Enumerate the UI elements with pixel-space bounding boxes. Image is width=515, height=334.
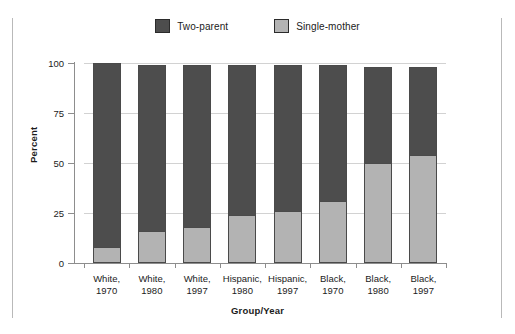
x-axis-tick <box>129 263 130 268</box>
legend-label-single-mother: Single-mother <box>296 21 360 32</box>
x-axis-tick <box>356 263 357 268</box>
y-axis-tick-label: 0 <box>59 258 64 269</box>
y-axis-tick-label: 100 <box>48 58 64 69</box>
y-axis-tick <box>68 213 74 214</box>
x-axis-tick <box>401 263 402 268</box>
bar-segment-single-mother[interactable] <box>93 247 121 263</box>
legend-item-two-parent: Two-parent <box>155 19 228 33</box>
figure-right-rule <box>501 18 502 318</box>
bar-group[interactable] <box>364 63 392 263</box>
bar-segment-single-mother[interactable] <box>138 231 166 263</box>
bar-segment-two-parent[interactable] <box>183 65 211 227</box>
bar-group[interactable] <box>228 63 256 263</box>
x-axis-tick-label-line: Black, <box>392 273 454 285</box>
bar-segment-two-parent[interactable] <box>409 67 437 155</box>
legend-label-two-parent: Two-parent <box>177 21 228 32</box>
figure-left-rule <box>12 18 13 318</box>
y-axis-tick <box>68 263 74 264</box>
bar-group[interactable] <box>183 63 211 263</box>
bar-group[interactable] <box>319 63 347 263</box>
bar-segment-two-parent[interactable] <box>93 63 121 247</box>
legend-swatch-single-mother <box>274 19 289 33</box>
bar-segment-single-mother[interactable] <box>364 163 392 263</box>
bar-segment-single-mother[interactable] <box>183 227 211 263</box>
y-axis-tick-label: 25 <box>53 208 64 219</box>
y-axis-tick-label: 75 <box>53 108 64 119</box>
bar-segment-two-parent[interactable] <box>228 65 256 215</box>
y-axis-title: Percent <box>28 127 39 163</box>
x-axis-tick <box>310 263 311 268</box>
plot-area: 0255075100 White,1970White,1980White,199… <box>84 63 446 263</box>
x-axis-title: Group/Year <box>0 305 515 316</box>
bar-segment-single-mother[interactable] <box>228 215 256 263</box>
x-axis-tick <box>84 263 85 268</box>
bar-segment-single-mother[interactable] <box>409 155 437 263</box>
x-axis-tick-label: Black,1997 <box>392 273 454 296</box>
bar-segment-two-parent[interactable] <box>319 65 347 201</box>
y-axis-tick <box>68 163 74 164</box>
bar-segment-single-mother[interactable] <box>274 211 302 263</box>
y-axis-line <box>74 62 75 264</box>
x-axis-tick <box>265 263 266 268</box>
bar-group[interactable] <box>93 63 121 263</box>
legend-swatch-two-parent <box>155 19 170 33</box>
y-axis-tick <box>68 113 74 114</box>
bar-segment-two-parent[interactable] <box>274 65 302 211</box>
x-axis-tick <box>175 263 176 268</box>
bar-segment-single-mother[interactable] <box>319 201 347 263</box>
bar-segment-two-parent[interactable] <box>138 65 166 231</box>
x-axis-tick <box>220 263 221 268</box>
y-axis-tick <box>68 63 74 64</box>
y-axis-tick-label: 50 <box>53 158 64 169</box>
bar-segment-two-parent[interactable] <box>364 67 392 163</box>
bar-group[interactable] <box>409 63 437 263</box>
chart-legend: Two-parent Single-mother <box>0 19 515 33</box>
bar-group[interactable] <box>138 63 166 263</box>
chart-figure: Two-parent Single-mother Percent 0255075… <box>0 0 515 334</box>
legend-item-single-mother: Single-mother <box>274 19 360 33</box>
bar-group[interactable] <box>274 63 302 263</box>
x-axis-tick-label-line: 1997 <box>392 285 454 297</box>
x-axis-tick <box>446 263 447 268</box>
